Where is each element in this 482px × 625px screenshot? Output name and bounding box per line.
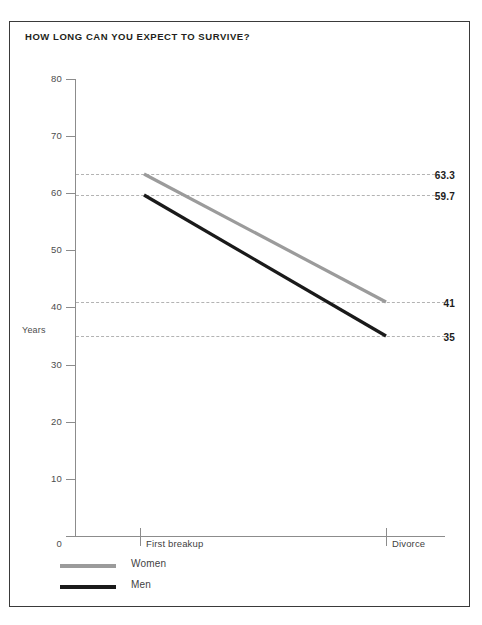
chart-card [9,21,470,607]
chart-title: HOW LONG CAN YOU EXPECT TO SURVIVE? [25,31,250,42]
